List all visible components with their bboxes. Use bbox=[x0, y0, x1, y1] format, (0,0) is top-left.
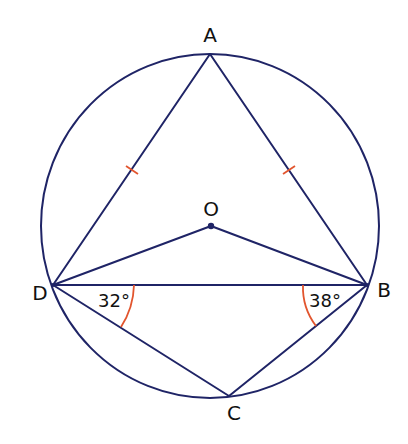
segment-CB bbox=[229, 285, 367, 396]
vertex-point-B bbox=[365, 283, 369, 287]
label-B: B bbox=[377, 278, 391, 302]
equal-tick-AB bbox=[283, 166, 295, 174]
label-A: A bbox=[203, 23, 217, 47]
label-D: D bbox=[32, 281, 47, 305]
angle-label-B: 38° bbox=[309, 290, 341, 311]
label-C: C bbox=[227, 401, 241, 425]
vertex-point-D bbox=[51, 283, 55, 287]
label-O: O bbox=[203, 197, 219, 221]
center-point-O bbox=[208, 223, 214, 229]
geometry-diagram: A O D B C 32° 38° bbox=[0, 0, 408, 444]
angle-label-D: 32° bbox=[98, 290, 130, 311]
segment-OB bbox=[211, 226, 367, 285]
segment-DC bbox=[53, 285, 229, 396]
segment-DO bbox=[53, 226, 211, 285]
